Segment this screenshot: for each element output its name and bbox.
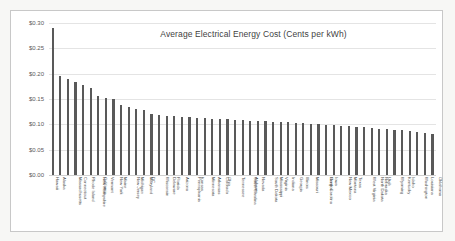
bar[interactable] bbox=[188, 117, 190, 175]
bar[interactable] bbox=[120, 105, 122, 175]
bar[interactable] bbox=[211, 119, 213, 175]
gridline bbox=[49, 175, 436, 176]
bar[interactable] bbox=[150, 114, 152, 175]
bar[interactable] bbox=[90, 88, 92, 175]
bar[interactable] bbox=[424, 133, 426, 175]
x-axis-tick: Pennsylvania bbox=[186, 177, 194, 233]
x-axis-tick: Rhode Island bbox=[79, 177, 87, 233]
bar[interactable] bbox=[112, 99, 114, 175]
x-axis-tick: Mississippi bbox=[269, 177, 277, 233]
bar[interactable] bbox=[143, 110, 145, 175]
bar[interactable] bbox=[249, 121, 251, 175]
bar[interactable] bbox=[59, 76, 61, 175]
bar-slot bbox=[208, 23, 216, 175]
screenshot-canvas: Average Electrical Energy Cost (Cents pe… bbox=[0, 0, 455, 241]
x-axis-tick: Missouri bbox=[307, 177, 315, 233]
bar[interactable] bbox=[204, 118, 206, 175]
x-axis-tick: DC bbox=[148, 177, 156, 233]
bar[interactable] bbox=[158, 115, 160, 175]
y-axis-tick-label: $0.20 bbox=[29, 71, 44, 77]
x-axis-tick: North Dakota bbox=[368, 177, 376, 233]
x-axis-tick: Georgia bbox=[292, 177, 300, 233]
bar-slot bbox=[64, 23, 72, 175]
y-axis-tick-label: $0.30 bbox=[29, 20, 44, 26]
bar[interactable] bbox=[173, 116, 175, 175]
bar[interactable] bbox=[378, 129, 380, 175]
bar[interactable] bbox=[409, 131, 411, 175]
bar[interactable] bbox=[264, 121, 266, 175]
bar[interactable] bbox=[355, 127, 357, 175]
x-axis-tick: Vermont bbox=[102, 177, 110, 233]
bar-slot bbox=[87, 23, 95, 175]
bar[interactable] bbox=[416, 132, 418, 175]
y-axis-tick-label: $0.00 bbox=[29, 172, 44, 178]
bar[interactable] bbox=[242, 120, 244, 175]
x-axis: HawaiiAlaskaMassachusettsConnecticutRhod… bbox=[49, 177, 436, 233]
bar-slot bbox=[216, 23, 224, 175]
x-axis-tick: Kansas bbox=[193, 177, 201, 233]
bar[interactable] bbox=[295, 123, 297, 175]
bar-slot bbox=[163, 23, 171, 175]
bar[interactable] bbox=[234, 120, 236, 175]
bar[interactable] bbox=[67, 79, 69, 175]
bar[interactable] bbox=[386, 129, 388, 175]
bar-slot bbox=[171, 23, 179, 175]
x-axis-tick: Wyoming bbox=[391, 177, 399, 233]
bar[interactable] bbox=[401, 130, 403, 175]
bar-slot bbox=[72, 23, 80, 175]
bar[interactable] bbox=[287, 122, 289, 175]
bar-slot bbox=[186, 23, 194, 175]
bar-slot bbox=[193, 23, 201, 175]
bar[interactable] bbox=[302, 123, 304, 175]
bar[interactable] bbox=[280, 122, 282, 175]
bar-slot bbox=[315, 23, 323, 175]
bar[interactable] bbox=[219, 119, 221, 175]
bar[interactable] bbox=[340, 126, 342, 175]
x-axis-tick: Texas bbox=[353, 177, 361, 233]
bar-slot bbox=[421, 23, 429, 175]
bar[interactable] bbox=[317, 124, 319, 175]
bar-slot bbox=[102, 23, 110, 175]
bar[interactable] bbox=[82, 85, 84, 175]
bar-slot bbox=[398, 23, 406, 175]
bar-slot bbox=[125, 23, 133, 175]
bar-slot bbox=[292, 23, 300, 175]
bar[interactable] bbox=[431, 134, 433, 175]
bar[interactable] bbox=[272, 122, 274, 175]
bar[interactable] bbox=[348, 126, 350, 175]
bar-slot bbox=[360, 23, 368, 175]
bar[interactable] bbox=[74, 82, 76, 175]
bar[interactable] bbox=[97, 96, 99, 175]
bar[interactable] bbox=[325, 125, 327, 175]
y-axis-tick-label: $0.25 bbox=[29, 45, 44, 51]
bar[interactable] bbox=[257, 121, 259, 175]
bar[interactable] bbox=[166, 116, 168, 175]
x-axis-tick: Montana bbox=[345, 177, 353, 233]
x-axis-tick: Oklahoma bbox=[429, 177, 437, 233]
x-axis-tick: Arizona bbox=[178, 177, 186, 233]
chart-object-frame[interactable]: Average Electrical Energy Cost (Cents pe… bbox=[10, 10, 443, 232]
bar-slot bbox=[406, 23, 414, 175]
bar[interactable] bbox=[226, 119, 228, 175]
bar[interactable] bbox=[181, 117, 183, 175]
bar[interactable] bbox=[363, 127, 365, 175]
bar-slot bbox=[284, 23, 292, 175]
bar[interactable] bbox=[105, 98, 107, 175]
bar[interactable] bbox=[371, 128, 373, 175]
x-axis-tick: Maine bbox=[117, 177, 125, 233]
bar[interactable] bbox=[52, 28, 54, 175]
bar[interactable] bbox=[196, 118, 198, 175]
bar-slot bbox=[133, 23, 141, 175]
bar-slot bbox=[148, 23, 156, 175]
bar[interactable] bbox=[333, 125, 335, 175]
x-axis-tick: Washington bbox=[414, 177, 422, 233]
x-axis-tick: Hawaii bbox=[49, 177, 57, 233]
bar[interactable] bbox=[310, 124, 312, 175]
bar[interactable] bbox=[135, 109, 137, 175]
bar-slot bbox=[391, 23, 399, 175]
bar[interactable] bbox=[393, 130, 395, 175]
x-axis-tick: Massachusetts bbox=[64, 177, 72, 233]
bar[interactable] bbox=[128, 107, 130, 175]
x-axis-tick: Wisconsin bbox=[155, 177, 163, 233]
x-axis-tick: California bbox=[95, 177, 103, 233]
